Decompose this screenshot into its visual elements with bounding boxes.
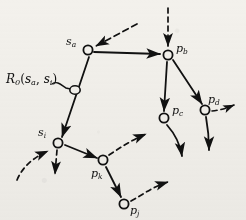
dashed-outbound-si bbox=[55, 150, 57, 174]
edge-pk-pj bbox=[106, 167, 121, 197]
relation-label-base: R bbox=[6, 72, 15, 86]
node-label-p-c-base: p bbox=[172, 104, 179, 117]
node-s-i[interactable] bbox=[53, 138, 62, 147]
node-label-s-i: si bbox=[38, 127, 46, 140]
relation-label-close-paren: ) bbox=[52, 72, 57, 86]
relation-label: R0(sa, si) bbox=[6, 73, 57, 86]
diagram-svg bbox=[0, 0, 246, 220]
node-label-p-j: pj bbox=[130, 205, 139, 218]
node-label-s-a: sa bbox=[66, 36, 76, 49]
node-p-b[interactable] bbox=[163, 50, 172, 59]
node-label-s-i-subscript: i bbox=[44, 131, 46, 140]
node-relation-marker[interactable] bbox=[70, 86, 80, 94]
edge-pb-pc bbox=[164, 62, 167, 111]
node-label-p-b-base: p bbox=[176, 42, 183, 55]
solid-outbound-pd bbox=[206, 117, 209, 150]
node-label-p-j-subscript: j bbox=[137, 209, 139, 218]
node-label-p-k-base: p bbox=[91, 167, 98, 180]
node-label-p-c-subscript: c bbox=[179, 109, 183, 118]
node-label-p-b: pb bbox=[176, 43, 188, 56]
node-label-s-a-subscript: a bbox=[72, 40, 76, 49]
node-label-p-d-subscript: d bbox=[215, 98, 220, 107]
dashed-inbound-si bbox=[17, 151, 48, 180]
node-label-p-k: pk bbox=[91, 168, 103, 181]
node-p-c[interactable] bbox=[159, 113, 168, 122]
dashed-inbound-sa bbox=[96, 24, 137, 46]
node-label-p-d-base: p bbox=[208, 93, 215, 106]
solid-outbound-pc bbox=[167, 125, 182, 156]
edge-sa-pb bbox=[94, 52, 160, 54]
node-p-d[interactable] bbox=[200, 105, 209, 114]
node-p-k[interactable] bbox=[98, 155, 107, 164]
edge-pb-pd bbox=[173, 60, 202, 104]
relation-label-comma: , bbox=[36, 72, 44, 86]
node-label-p-j-base: p bbox=[130, 204, 137, 217]
figure-canvas: R0(sa, si) sa pb si pc pd pk pj bbox=[0, 0, 246, 220]
node-p-j[interactable] bbox=[119, 199, 128, 208]
edge-sa-si bbox=[62, 57, 89, 137]
node-label-p-c: pc bbox=[172, 105, 183, 118]
node-s-a[interactable] bbox=[83, 45, 92, 54]
node-label-p-d: pd bbox=[208, 94, 220, 107]
dashed-outbound-pk bbox=[109, 134, 146, 155]
node-label-p-k-subscript: k bbox=[98, 172, 103, 181]
edge-si-pk bbox=[65, 145, 97, 158]
node-label-p-b-subscript: b bbox=[183, 47, 188, 56]
dashed-outbound-pj bbox=[131, 182, 168, 201]
